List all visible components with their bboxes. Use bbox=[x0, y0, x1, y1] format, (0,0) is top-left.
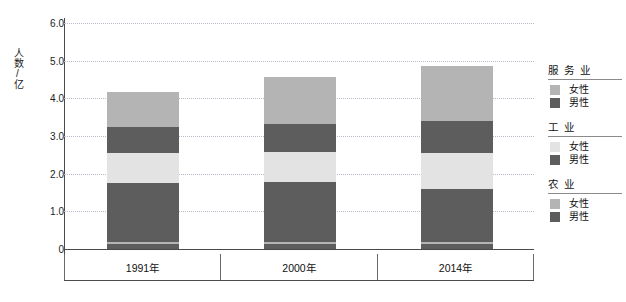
legend-swatch-icon bbox=[550, 199, 560, 209]
legend-swatch-icon bbox=[550, 155, 560, 165]
segment-agriculture-male bbox=[264, 244, 336, 249]
legend-swatch-icon bbox=[550, 142, 560, 152]
segment-industry-female bbox=[107, 153, 179, 183]
x-cell-2000: 2000年 bbox=[221, 254, 378, 280]
legend-item-industry-female[interactable]: 女性 bbox=[550, 142, 622, 152]
segment-services-male bbox=[264, 124, 336, 153]
legend-item-services-male[interactable]: 男性 bbox=[550, 98, 622, 108]
bar-2000[interactable] bbox=[264, 77, 336, 249]
legend: 服 务 业 女性 男性 工 业 女性 男性 农 业 bbox=[548, 62, 622, 233]
legend-item-label: 女性 bbox=[569, 142, 589, 152]
y-tick-0: 0 bbox=[24, 244, 64, 255]
legend-swatch-icon bbox=[550, 98, 560, 108]
legend-group-title: 服 务 业 bbox=[548, 62, 622, 80]
gridline-5 bbox=[64, 61, 534, 62]
chart-page: 人数/亿 6.0 5.0 4.0 3.0 2.0 1.0 0 bbox=[0, 0, 626, 302]
legend-group-title: 农 业 bbox=[548, 176, 622, 194]
bar-1991[interactable] bbox=[107, 92, 179, 249]
legend-item-agriculture-female[interactable]: 女性 bbox=[550, 199, 622, 209]
x-tick-label-2000: 2000年 bbox=[221, 260, 377, 275]
y-tick-1: 1.0 bbox=[24, 206, 64, 217]
segment-agriculture-male bbox=[107, 244, 179, 249]
legend-swatch-icon bbox=[550, 85, 560, 95]
legend-group-services: 服 务 业 女性 男性 bbox=[548, 62, 622, 108]
segment-industry-male bbox=[264, 182, 336, 242]
segment-industry-male bbox=[107, 183, 179, 241]
bar-2014[interactable] bbox=[421, 66, 493, 249]
y-tick-3: 3.0 bbox=[24, 131, 64, 142]
legend-group-agriculture: 农 业 女性 男性 bbox=[548, 176, 622, 222]
x-axis: 1991年 2000年 2014年 bbox=[64, 254, 534, 281]
legend-swatch-icon bbox=[550, 212, 560, 222]
y-axis-label: 人数/亿 bbox=[10, 48, 25, 89]
x-cell-2014: 2014年 bbox=[378, 254, 534, 280]
segment-services-male bbox=[421, 121, 493, 153]
x-tick-label-2014: 2014年 bbox=[378, 260, 533, 275]
x-tick-label-1991: 1991年 bbox=[65, 260, 220, 275]
segment-industry-female bbox=[421, 153, 493, 189]
gridline-0 bbox=[64, 249, 534, 250]
legend-item-industry-male[interactable]: 男性 bbox=[550, 155, 622, 165]
legend-item-label: 男性 bbox=[569, 155, 589, 165]
y-tick-4: 4.0 bbox=[24, 93, 64, 104]
segment-services-male bbox=[107, 127, 179, 153]
legend-item-services-female[interactable]: 女性 bbox=[550, 85, 622, 95]
y-tick-2: 2.0 bbox=[24, 169, 64, 180]
legend-item-label: 女性 bbox=[569, 85, 589, 95]
segment-services-female bbox=[107, 92, 179, 127]
plot-area bbox=[64, 18, 534, 254]
gridline-6 bbox=[64, 23, 534, 24]
segment-services-female bbox=[264, 77, 336, 124]
segment-agriculture-male bbox=[421, 244, 493, 249]
segment-industry-male bbox=[421, 189, 493, 242]
legend-item-label: 男性 bbox=[569, 98, 589, 108]
legend-item-label: 男性 bbox=[569, 212, 589, 222]
x-cell-1991: 1991年 bbox=[64, 254, 221, 280]
legend-item-agriculture-male[interactable]: 男性 bbox=[550, 212, 622, 222]
legend-group-title: 工 业 bbox=[548, 119, 622, 137]
segment-services-female bbox=[421, 66, 493, 121]
legend-item-label: 女性 bbox=[569, 199, 589, 209]
y-tick-6: 6.0 bbox=[24, 18, 64, 29]
y-tick-5: 5.0 bbox=[24, 56, 64, 67]
legend-group-industry: 工 业 女性 男性 bbox=[548, 119, 622, 165]
segment-industry-female bbox=[264, 152, 336, 182]
